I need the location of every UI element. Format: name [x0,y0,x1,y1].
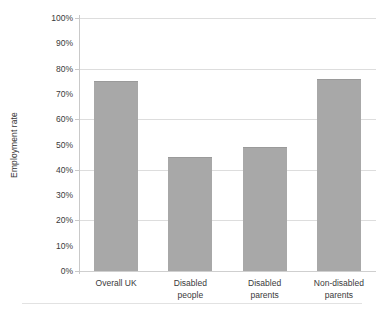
bar-chart: Employment rate 0%10%20%30%40%50%60%70%8… [0,0,386,317]
bar [317,79,361,271]
bar [94,81,138,271]
y-tickmark-20 [75,220,80,221]
bar [243,147,287,271]
gridline-80 [79,69,376,70]
x-axis-tick-label: Disabled people [153,278,227,301]
y-axis-tick-label: 100% [13,13,73,23]
y-axis-tick-label: 60% [13,114,73,124]
bar [168,157,212,271]
plot-area [79,18,376,271]
y-axis-tick-label: 10% [13,241,73,251]
y-axis-tick-label: 0% [13,266,73,276]
y-tickmark-60 [75,119,80,120]
y-axis-tick-label: 80% [13,64,73,74]
gridline-100 [79,18,376,19]
y-axis-tick-label: 50% [13,140,73,150]
x-axis-tick-label: Non-disabled parents [302,278,376,301]
y-axis-tick-label: 40% [13,165,73,175]
y-axis-tick-label: 30% [13,190,73,200]
x-axis-tick-label: Overall UK [79,278,153,290]
footer-divider [22,303,362,304]
y-tickmark-0 [75,271,80,272]
y-tickmark-40 [75,170,80,171]
y-axis-tick-label: 70% [13,89,73,99]
y-tickmark-100 [75,18,80,19]
y-axis-tick-label: 20% [13,215,73,225]
x-axis-tick-label: Disabled parents [228,278,302,301]
y-axis-tick-label: 90% [13,38,73,48]
y-tickmark-80 [75,69,80,70]
gridline-0 [79,271,376,272]
